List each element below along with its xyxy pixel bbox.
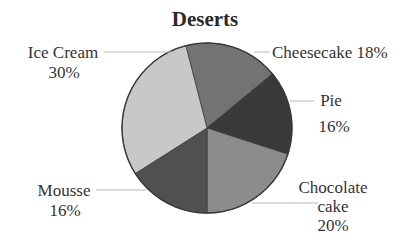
label-ice-cream-name: Ice Cream	[28, 43, 98, 62]
label-pie-name: Pie	[320, 91, 342, 110]
label-pie: Pie 16%	[318, 91, 349, 136]
label-chocolate-cake-line1: Chocolate	[299, 178, 368, 197]
label-ice-cream: Ice Cream 30%	[28, 43, 98, 82]
label-chocolate-cake-line2: cake	[317, 197, 348, 216]
label-ice-cream-value: 30%	[48, 63, 79, 82]
label-mousse: Mousse 16%	[38, 181, 91, 220]
pie-slices	[122, 43, 292, 213]
label-chocolate-cake-value: 20%	[317, 216, 348, 235]
label-mousse-name: Mousse	[38, 181, 91, 200]
label-cheesecake: Cheesecake 18%	[272, 43, 388, 62]
label-cheesecake-text: Cheesecake 18%	[272, 43, 388, 62]
label-chocolate-cake: Chocolate cake 20%	[299, 178, 368, 235]
chart-title: Deserts	[172, 7, 238, 31]
label-pie-value: 16%	[318, 117, 349, 136]
label-mousse-value: 16%	[49, 201, 80, 220]
pie-chart: Deserts Ice Cream 30% Cheesecake 18% Pie…	[0, 0, 418, 246]
